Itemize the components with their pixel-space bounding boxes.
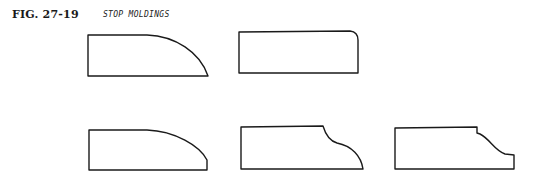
rounded-corner-profile [239, 31, 358, 73]
moldings-diagram [0, 0, 536, 177]
quarter-round-large-profile [88, 35, 208, 76]
ogee-profile [395, 127, 514, 169]
cove-and-round-profile [241, 126, 363, 169]
elliptical-round-profile [89, 130, 207, 170]
